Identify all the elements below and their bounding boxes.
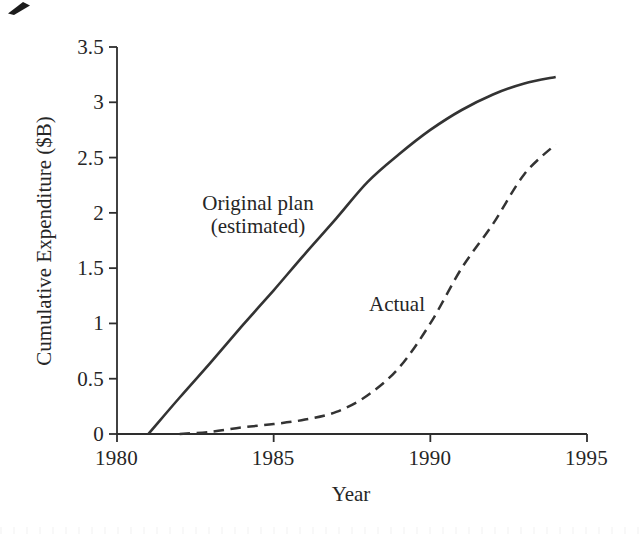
y-tick-label: 2 [52,202,104,224]
figure-page: 00.511.522.533.5 1980198519901995 Cumula… [0,0,640,535]
scan-noise-band [0,527,640,534]
y-axis-title: Cumulative Expenditure ($B) [32,116,57,366]
y-tick-label: 2.5 [52,147,104,169]
series-annotation-actual: Actual [369,293,425,316]
x-tick-label: 1990 [395,447,465,469]
tick-marks [109,47,587,442]
x-tick-label: 1995 [552,447,622,469]
scan-artifact-mark [8,2,30,15]
y-tick-label: 3.5 [52,36,104,58]
y-tick-label: 0.5 [52,368,104,390]
axis-frame [117,47,587,434]
x-tick-label: 1980 [82,447,152,469]
x-axis-title: Year [332,482,371,507]
y-tick-label: 1 [52,312,104,334]
y-tick-label: 3 [52,91,104,113]
x-tick-label: 1985 [238,447,308,469]
series-annotation-line1: Original plan [202,192,313,215]
actual-line [180,144,556,434]
series-annotation-line2: (estimated) [202,215,313,238]
y-tick-label: 1.5 [52,257,104,279]
y-tick-label: 0 [52,423,104,445]
original-plan-line [148,77,555,434]
series-annotation-original-plan: Original plan (estimated) [202,192,313,238]
